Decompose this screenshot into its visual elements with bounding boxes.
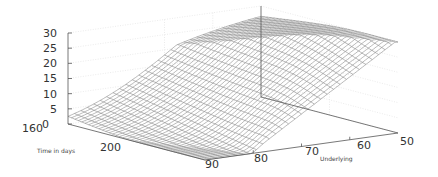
x-tick-label: 200 [100, 141, 121, 154]
y-axis-label: Underlying [320, 155, 353, 163]
surface-mesh [68, 16, 398, 160]
mesh-line-underlying [203, 35, 340, 85]
mesh-line-underlying [165, 55, 302, 114]
y-tick-label: 50 [400, 135, 414, 148]
y-tick-label: 60 [357, 139, 371, 152]
x-tick-label: 160 [22, 122, 43, 135]
y-tick-label: 90 [205, 158, 219, 171]
z-tick-label: 25 [43, 42, 57, 55]
y-tick-label: 80 [254, 152, 268, 165]
z-tick-label: 5 [50, 103, 57, 116]
y-tick-label: 70 [305, 145, 319, 158]
mesh-line-time [133, 25, 326, 141]
z-tick-label: 20 [43, 57, 57, 70]
x-axis-label: Time in days [36, 147, 75, 155]
surface-chart: 0 5 10 15 20 25 30 160 200 90 80 70 60 5… [0, 0, 438, 177]
z-tick-label: 15 [43, 72, 57, 85]
x-axis [68, 124, 205, 160]
z-tick-label: 10 [43, 88, 57, 101]
mesh-line-underlying [113, 93, 250, 154]
z-tick-label: 0 [42, 118, 49, 131]
z-tick-label: 30 [43, 27, 57, 40]
